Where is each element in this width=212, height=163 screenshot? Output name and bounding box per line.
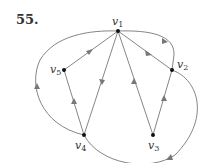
- directed-graph: v1 v2 v3 v4 v5: [0, 0, 212, 163]
- arrow-v4-v5: [71, 98, 77, 104]
- label-v3: v3: [148, 139, 159, 153]
- arrow-v2-v4-curve: [166, 154, 173, 160]
- arrow-v5-v1: [86, 49, 93, 55]
- vertex-v5: [62, 68, 66, 72]
- arrow-v3-v2: [161, 95, 167, 101]
- vertex-v3: [151, 133, 155, 137]
- vertex-v4: [82, 133, 86, 137]
- arrow-v4-v1-curve: [34, 83, 40, 89]
- edge-v1-v2: [118, 31, 172, 70]
- arrow-v1-v2: [145, 50, 152, 56]
- label-v2: v2: [177, 58, 188, 72]
- vertex-v2: [170, 68, 174, 72]
- label-v1: v1: [112, 15, 123, 29]
- arrow-v3-v1: [131, 78, 137, 84]
- label-v4: v4: [75, 139, 86, 153]
- edge-v4-v1-curve: [36, 31, 118, 135]
- label-v5: v5: [50, 63, 61, 77]
- edge-v3-v2: [153, 70, 172, 135]
- arrow-v1-v4: [99, 79, 105, 85]
- vertex-v1: [116, 29, 120, 33]
- arrow-v1-v2-curve: [162, 38, 168, 44]
